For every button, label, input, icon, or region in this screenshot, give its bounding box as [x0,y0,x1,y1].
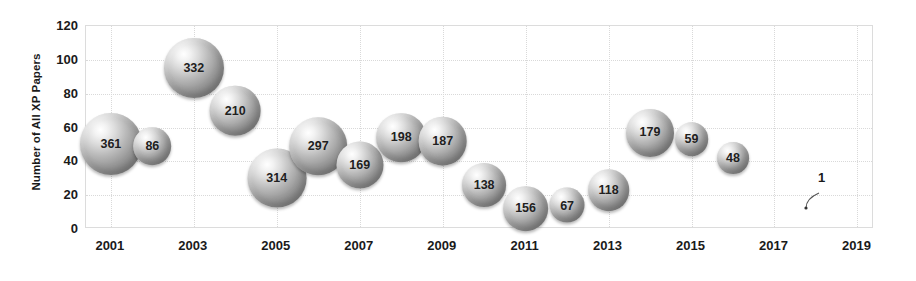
x-axis-tick: 2015 [656,238,726,253]
bubble-value-label: 361 [100,138,121,151]
x-axis-tick: 2009 [407,238,477,253]
bubble-value-label: 297 [308,140,329,153]
y-axis-tick: 60 [40,119,78,134]
bubble-data-point: 332 [164,38,224,98]
bubble-data-point: 138 [462,163,506,207]
y-axis-tick: 0 [40,221,78,236]
bubble-value-label: 48 [726,152,740,165]
x-axis-tick: 2001 [75,238,145,253]
bubble-value-label: 86 [145,140,159,153]
plot-area: 3618633221031429716919818713815667118179… [85,25,873,228]
x-axis-tick: 2005 [241,238,311,253]
x-axis-tick: 2011 [490,238,560,253]
bubble-data-point: 210 [210,85,261,136]
bubble-value-label: 179 [640,126,661,139]
bubble-data-point: 187 [418,117,467,166]
bubble-data-point: 67 [550,188,585,223]
bubble-value-label: 332 [183,62,204,75]
bubble-value-label: 67 [560,199,574,212]
x-axis-tick: 2007 [324,238,394,253]
bubble-data-point: 118 [588,169,630,211]
gridline-vertical [774,26,775,227]
bubble-value-label: 138 [474,179,495,192]
bubble-data-point: 48 [717,142,749,174]
x-axis-tick: 2019 [821,238,891,253]
x-axis-tick: 2003 [158,238,228,253]
y-axis-tick: 100 [40,51,78,66]
y-axis-tick: 120 [40,18,78,33]
bubble-data-point: 86 [134,127,172,165]
bubble-value-label: 118 [598,184,618,197]
bubble-data-point: 156 [503,186,549,232]
x-axis-tick: 2013 [573,238,643,253]
y-axis-tick: 20 [40,187,78,202]
bubble-value-label: 59 [685,133,699,146]
x-axis-tick-labels: 2001200320052007200920112013201520172019 [0,238,916,260]
callout-value-label: 1 [818,170,825,185]
callout-annotation: 1 [804,188,828,212]
bubble-value-label: 198 [391,131,412,144]
bubble-value-label: 156 [515,202,536,215]
leader-line-icon [804,188,828,212]
gridline-horizontal [86,128,872,129]
bubble-data-point: 179 [626,109,674,157]
y-axis-tick: 80 [40,85,78,100]
gridline-horizontal [86,161,872,162]
bubble-value-label: 187 [432,135,453,148]
bubble-value-label: 210 [225,104,246,117]
gridline-vertical [857,26,858,227]
gridline-vertical [360,26,361,227]
bubble-value-label: 169 [349,158,370,171]
bubble-data-point: 59 [675,122,709,156]
bubble-value-label: 314 [266,172,287,185]
x-axis-tick: 2017 [738,238,808,253]
y-axis-tick: 40 [40,153,78,168]
bubble-data-point: 169 [336,141,383,188]
bubble-chart: Number of All XP Papers 020406080100120 … [0,0,916,281]
